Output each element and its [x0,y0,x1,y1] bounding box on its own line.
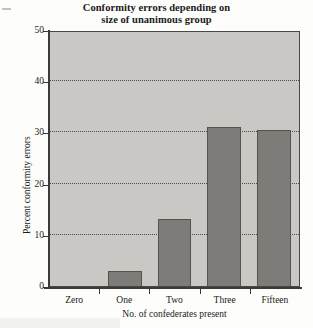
chart-title-line-1: Conformity errors depending on [0,2,313,14]
plot-area [49,31,300,287]
y-tick-label-0: 0 [39,282,44,292]
y-axis-title: Percent conformity errors [10,96,24,236]
y-tick-label-10: 10 [35,231,45,241]
x-tick-label-three: Three [200,295,250,305]
bar-slot-zero [50,32,100,286]
y-axis-line [48,30,50,288]
scan-artifact-bottom-left [0,318,120,328]
bar-slot-three [199,32,249,286]
x-axis-title: No. of confederates present [49,309,300,319]
bar-two [158,219,192,286]
y-tick-label-30: 30 [35,128,45,138]
chart-title-line-2: size of unanimous group [0,14,313,26]
x-tick-label-two: Two [149,295,199,305]
x-tick-mark-4 [250,288,251,294]
y-tick-label-40: 40 [35,77,45,87]
x-tick-mark-1 [99,288,100,294]
chart-screenshot: Conformity errors depending on size of u… [0,0,313,328]
chart-title: Conformity errors depending on size of u… [0,2,313,25]
x-axis-line [44,287,302,289]
bar-series [50,32,299,286]
bar-slot-one [100,32,150,286]
y-tick-label-20: 20 [35,180,45,190]
x-tick-label-one: One [99,295,149,305]
x-tick-mark-3 [200,288,201,294]
bar-slot-two [150,32,200,286]
bar-fifteen [257,130,291,286]
x-tick-label-fifteen: Fifteen [250,295,300,305]
x-tick-mark-2 [149,288,150,294]
bar-three [207,127,241,286]
y-axis-title-text: Percent conformity errors [22,136,32,234]
bar-slot-fifteen [249,32,299,286]
y-tick-label-50: 50 [35,26,45,36]
x-tick-label-zero: Zero [49,295,99,305]
bar-one [108,271,142,286]
